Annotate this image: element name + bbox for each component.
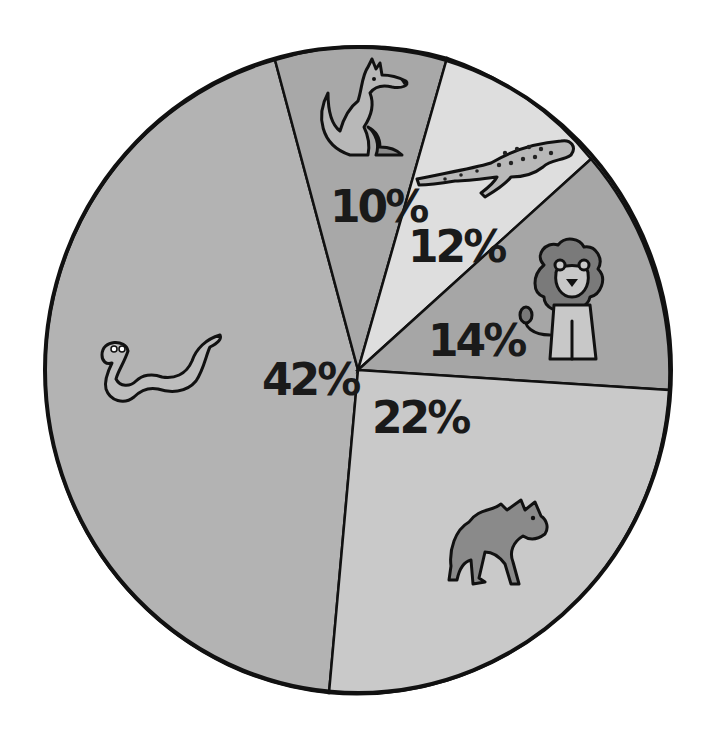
- label-cheetah: 12%: [408, 221, 506, 272]
- label-lion: 14%: [428, 315, 526, 366]
- label-hyena: 22%: [372, 392, 470, 443]
- pie-chart: 10% 12% 14% 22% 42%: [0, 0, 713, 742]
- label-snake: 42%: [262, 354, 360, 405]
